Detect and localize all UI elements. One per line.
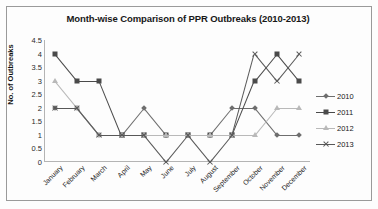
legend-item-2012[interactable]: 2012 [316,120,374,136]
legend-swatch [316,91,335,101]
marker-x-icon [295,50,302,57]
marker-x-icon [118,131,125,138]
series-2013 [44,40,310,162]
legend-label: 2012 [337,124,354,133]
x-tick-label: May [138,164,152,178]
legend-item-2010[interactable]: 2010 [316,88,374,104]
legend-item-2011[interactable]: 2011 [316,104,374,120]
x-tick-label: April [116,164,131,179]
y-axis-ticks: 4.543.532.521.510.50 [4,40,42,162]
y-tick-label: 3 [8,76,42,85]
x-tick-label: March [90,164,109,183]
y-tick-label: 2 [8,103,42,112]
y-tick-label: 3.5 [8,63,42,72]
marker-x-icon [96,131,103,138]
figure-border-top [6,6,372,7]
legend-item-2013[interactable]: 2013 [316,136,374,152]
y-tick-label: 4 [8,49,42,58]
legend-swatch [316,123,335,133]
x-tick-label: August [199,164,219,184]
y-tick-label: 1.5 [8,117,42,126]
chart-title: Month-wise Comparison of PPR Outbreaks (… [38,13,338,24]
marker-x-icon [273,77,280,84]
x-axis-ticks: JanuaryFebruaryMarchAprilMayJuneJulyAugu… [44,164,310,208]
legend-swatch [316,107,335,117]
x-tick-label: July [183,164,197,178]
marker-x-icon [52,104,59,111]
marker-x-icon [140,131,147,138]
legend-label: 2011 [337,108,353,117]
plot-area [44,40,310,162]
chart-legend: 2010201120122013 [316,88,374,152]
marker-x-icon [322,141,329,148]
chart-figure: Month-wise Comparison of PPR Outbreaks (… [0,0,378,209]
y-tick-label: 2.5 [8,90,42,99]
x-tick-label: June [159,164,175,180]
legend-label: 2013 [337,140,354,149]
marker-square-icon [323,110,328,115]
x-tick-label: February [61,164,86,189]
marker-x-icon [185,131,192,138]
marker-triangle-icon [323,125,329,130]
marker-diamond-icon [323,93,329,99]
legend-swatch [316,139,335,149]
marker-x-icon [74,104,81,111]
marker-x-icon [251,50,258,57]
y-tick-label: 0.5 [8,144,42,153]
legend-label: 2010 [337,92,354,101]
series-line-segment [232,54,256,136]
y-tick-label: 1 [8,130,42,139]
y-tick-label: 0 [8,158,42,167]
marker-x-icon [229,131,236,138]
y-tick-label: 4.5 [8,36,42,45]
